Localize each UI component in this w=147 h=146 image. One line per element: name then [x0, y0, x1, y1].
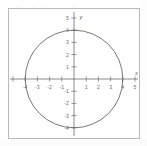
x-tick-label: 3: [109, 84, 112, 90]
y-tick-label: 4: [66, 27, 69, 33]
y-tick-label: -2: [64, 100, 69, 106]
figure-root: -4 -3 -2 -1 1 2 3 4 5 5 4 3 2 1 -1 -2 -3…: [0, 0, 147, 146]
x-tick-label: 2: [97, 84, 100, 90]
coordinate-plane: -4 -3 -2 -1 1 2 3 4 5 5 4 3 2 1 -1 -2 -3…: [9, 9, 139, 138]
y-tick-label: 1: [66, 64, 69, 70]
x-axis-label: x: [134, 70, 138, 76]
x-tick-label: -2: [47, 84, 52, 90]
y-tick-label: -4: [64, 125, 69, 131]
x-tick-label: 4: [121, 84, 124, 90]
y-tick-label: -3: [64, 113, 69, 119]
x-tick-label: -3: [35, 84, 40, 90]
y-tick-label: 5: [66, 15, 69, 21]
y-tick-label-group: 5 4 3 2 1 -1 -2 -3 -4: [64, 15, 69, 131]
plot-frame: -4 -3 -2 -1 1 2 3 4 5 5 4 3 2 1 -1 -2 -3…: [8, 8, 140, 139]
y-axis-label: y: [79, 14, 84, 20]
x-tick-label-group: -4 -3 -2 -1 1 2 3 4 5: [23, 84, 137, 90]
y-tick-label: 2: [66, 52, 69, 58]
x-tick-label: 1: [85, 84, 88, 90]
y-tick-label: 3: [66, 39, 69, 45]
x-tick-label: 5: [134, 84, 137, 90]
x-tick-label: -4: [23, 84, 28, 90]
y-tick-label: -1: [64, 88, 69, 94]
